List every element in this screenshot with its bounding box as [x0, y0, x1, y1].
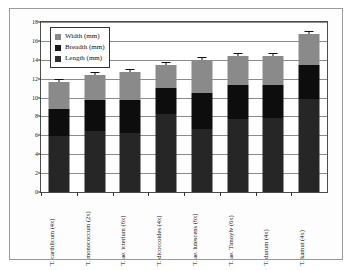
x-axis-label-slot: T. dicoccoides (4x) [147, 195, 183, 265]
y-axis-tick-label: 2 [35, 170, 38, 176]
bar-slot [220, 22, 256, 192]
bar-segment-width[interactable] [191, 60, 212, 93]
bar-slot [113, 22, 149, 192]
error-bar-cap [126, 69, 135, 70]
legend-item[interactable]: Width (mm) [55, 31, 104, 42]
bar-segment-length[interactable] [48, 136, 69, 192]
bar-slot [291, 22, 327, 192]
stacked-bar[interactable] [299, 34, 320, 192]
chart-legend: Width (mm)Breadth (mm)Length (mm) [50, 27, 110, 68]
bar-segment-breadth[interactable] [227, 85, 248, 119]
x-axis-category-label: T. kamut (4x) [299, 230, 306, 265]
x-axis-category-label: T. durum (4x) [263, 229, 270, 265]
legend-swatch-icon [55, 34, 61, 40]
x-axis-label-slot: T. monococcum (2x) [76, 195, 112, 265]
y-axis-tick-label: 18 [32, 19, 38, 25]
bar-segment-breadth[interactable] [156, 88, 177, 114]
x-axis-category-label: T. ae. icterium (6x) [120, 215, 127, 265]
y-axis-tick-label: 12 [32, 76, 38, 82]
bar-slot [256, 22, 292, 192]
y-axis-tick-label: 10 [32, 95, 38, 101]
bar-segment-width[interactable] [156, 65, 177, 88]
stacked-bar[interactable] [120, 72, 141, 192]
error-bar-cap [90, 72, 99, 73]
stacked-bar[interactable] [263, 56, 284, 192]
bar-slot [184, 22, 220, 192]
x-axis-label-slot: T. durum (4x) [255, 195, 291, 265]
bar-segment-width[interactable] [227, 56, 248, 86]
bar-segment-length[interactable] [191, 129, 212, 192]
bar-segment-width[interactable] [84, 75, 105, 101]
error-bar-cap [162, 62, 171, 63]
legend-swatch-icon [55, 56, 61, 62]
legend-label: Length (mm) [65, 55, 102, 62]
chart-frame: 024681012141618 T. carthlicum (4x)T. mon… [9, 8, 343, 260]
y-axis-tick-label: 6 [35, 132, 38, 138]
x-axis-label-slot: T. ae. lutescens (6x) [183, 195, 219, 265]
bar-segment-width[interactable] [299, 34, 320, 64]
y-axis-tick-label: 14 [32, 57, 38, 63]
x-axis-label-slot: T. ae. Timoylv (6x) [219, 195, 255, 265]
stacked-bar[interactable] [156, 65, 177, 192]
bar-segment-length[interactable] [84, 131, 105, 192]
x-axis-category-label: T. dicoccoides (4x) [156, 215, 163, 265]
bar-segment-length[interactable] [227, 119, 248, 192]
bar-segment-width[interactable] [48, 82, 69, 108]
bar-segment-breadth[interactable] [84, 100, 105, 130]
bar-segment-breadth[interactable] [120, 100, 141, 132]
bar-segment-length[interactable] [120, 133, 141, 193]
y-axis-tick-label: 8 [35, 113, 38, 119]
bar-segment-breadth[interactable] [48, 109, 69, 136]
error-bar-cap [197, 57, 206, 58]
x-axis-category-label: T. monococcum (2x) [84, 211, 91, 265]
legend-label: Width (mm) [65, 33, 100, 40]
x-axis-labels: T. carthlicum (4x)T. monococcum (2x)T. a… [40, 195, 328, 265]
stacked-bar[interactable] [84, 75, 105, 192]
bar-segment-width[interactable] [120, 72, 141, 100]
bar-segment-breadth[interactable] [191, 93, 212, 129]
y-axis-tick-label: 16 [32, 38, 38, 44]
bar-slot [148, 22, 184, 192]
x-axis-category-label: T. ae. Timoylv (6x) [227, 215, 234, 265]
stacked-bar[interactable] [48, 82, 69, 192]
bar-segment-length[interactable] [156, 114, 177, 192]
error-bar-cap [269, 53, 278, 54]
legend-label: Breadth (mm) [65, 44, 104, 51]
bar-segment-width[interactable] [263, 56, 284, 86]
bar-segment-breadth[interactable] [263, 85, 284, 118]
bar-segment-breadth[interactable] [299, 65, 320, 99]
error-bar-cap [233, 53, 242, 54]
legend-swatch-icon [55, 45, 61, 51]
bar-segment-length[interactable] [263, 118, 284, 192]
x-axis-category-label: T. ae. lutescens (6x) [191, 213, 198, 265]
error-bar-cap [305, 31, 314, 32]
y-axis-tick-label: 0 [35, 189, 38, 195]
plot-wrapper: 024681012141618 T. carthlicum (4x)T. mon… [10, 9, 342, 259]
stacked-bar[interactable] [227, 56, 248, 192]
error-bar-cap [54, 79, 63, 80]
x-axis-category-label: T. carthlicum (4x) [48, 218, 55, 265]
legend-item[interactable]: Length (mm) [55, 53, 104, 64]
x-axis-label-slot: T. carthlicum (4x) [40, 195, 76, 265]
y-axis-tick-label: 4 [35, 151, 38, 157]
stacked-bar[interactable] [191, 60, 212, 192]
bar-segment-length[interactable] [299, 99, 320, 193]
x-axis-label-slot: T. ae. icterium (6x) [112, 195, 148, 265]
legend-item[interactable]: Breadth (mm) [55, 42, 104, 53]
x-axis-label-slot: T. kamut (4x) [290, 195, 326, 265]
